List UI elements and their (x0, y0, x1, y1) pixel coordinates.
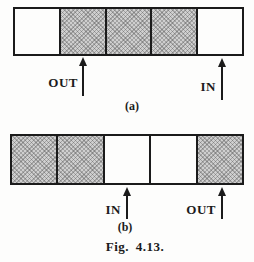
out-label: OUT (40, 76, 78, 89)
arrowhead-icon (218, 58, 226, 67)
in-arrow-icon (217, 58, 227, 100)
buffer-bar-a (13, 7, 244, 56)
in-label: IN (180, 80, 216, 93)
panel-label-a: (a) (112, 100, 152, 112)
buffer-cell (15, 9, 61, 54)
arrow-shaft (221, 196, 223, 219)
arrowhead-icon (218, 187, 226, 196)
buffer-cell (58, 136, 104, 183)
buffer-cell (61, 9, 107, 54)
buffer-bar-b (10, 134, 244, 185)
in-label: IN (86, 203, 121, 216)
panel-label-b: (b) (105, 221, 145, 233)
buffer-cell (152, 9, 198, 54)
buffer-cell (151, 136, 197, 183)
arrowhead-icon (123, 187, 131, 196)
out-arrow-icon (78, 57, 88, 96)
buffer-cell (198, 136, 242, 183)
buffer-cell (107, 9, 153, 54)
buffer-cell (105, 136, 151, 183)
figure-caption: Fig. 4.13. (85, 240, 185, 253)
arrow-shaft (221, 67, 223, 100)
out-arrow-icon (217, 187, 227, 219)
arrow-shaft (82, 66, 84, 96)
buffer-cell (12, 136, 58, 183)
arrow-shaft (126, 196, 128, 219)
figure-4-13: OUT IN (a) IN OUT (b) Fig. 4.13. (0, 0, 254, 262)
out-label: OUT (178, 203, 216, 216)
in-arrow-icon (122, 187, 132, 219)
arrowhead-icon (79, 57, 87, 66)
buffer-cell (198, 9, 242, 54)
